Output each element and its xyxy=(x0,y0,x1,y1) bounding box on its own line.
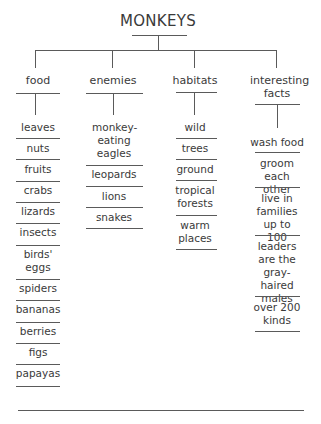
facts-item: live in families up to 100 xyxy=(254,192,300,244)
food-item: papayas xyxy=(12,367,64,380)
habitats-item: tropical forests xyxy=(174,184,216,210)
title-underline xyxy=(132,35,187,36)
facts-item: groom each other xyxy=(250,157,304,196)
category-food-stem xyxy=(35,93,36,115)
category-habitats-underline xyxy=(176,92,217,93)
divider xyxy=(16,159,60,160)
category-enemies-underline xyxy=(86,93,143,94)
divider xyxy=(86,228,143,229)
divider xyxy=(16,364,60,365)
divider xyxy=(255,331,300,332)
divider xyxy=(86,186,143,187)
enemies-item: lions xyxy=(84,190,144,203)
category-food-label: food xyxy=(15,74,61,87)
divider xyxy=(255,152,300,153)
food-item: nuts xyxy=(14,142,62,155)
divider xyxy=(16,386,60,387)
divider xyxy=(16,181,60,182)
branch-bar xyxy=(35,50,277,51)
food-item: figs xyxy=(14,346,62,359)
divider xyxy=(176,138,217,139)
enemies-item: monkey-eating eagles xyxy=(92,121,136,160)
drop-food xyxy=(35,50,36,68)
food-item: birds' eggs xyxy=(18,248,58,274)
divider xyxy=(16,322,60,323)
category-facts-label: interesting facts xyxy=(250,74,304,100)
divider xyxy=(176,180,217,181)
drop-enemies xyxy=(112,50,113,68)
divider xyxy=(176,249,217,250)
food-item: spiders xyxy=(14,282,62,295)
facts-item: over 200 kinds xyxy=(252,301,302,327)
category-food-underline xyxy=(16,93,60,94)
title-stem xyxy=(158,35,159,50)
drop-facts xyxy=(276,50,277,68)
divider xyxy=(16,300,60,301)
divider xyxy=(16,223,60,224)
food-item: insects xyxy=(14,226,62,239)
divider xyxy=(255,187,300,188)
food-item: fruits xyxy=(14,163,62,176)
divider xyxy=(86,165,143,166)
divider xyxy=(16,245,60,246)
divider xyxy=(255,296,300,297)
diagram-title: MONKEYS xyxy=(108,12,208,30)
habitats-item: wild xyxy=(172,121,218,134)
category-facts-stem xyxy=(277,104,278,128)
category-habitats-stem xyxy=(194,92,195,115)
divider xyxy=(16,343,60,344)
enemies-item: leopards xyxy=(84,168,144,181)
habitats-item: trees xyxy=(172,142,218,155)
habitats-item: warm places xyxy=(174,219,216,245)
divider xyxy=(176,215,217,216)
drop-habitats xyxy=(194,50,195,68)
bottom-rule xyxy=(18,410,304,411)
category-enemies-stem xyxy=(113,93,114,115)
divider xyxy=(255,235,300,236)
divider xyxy=(176,159,217,160)
divider xyxy=(16,138,60,139)
enemies-item: snakes xyxy=(84,211,144,224)
facts-item: wash food xyxy=(248,136,306,149)
food-item: leaves xyxy=(14,121,62,134)
food-item: crabs xyxy=(14,184,62,197)
category-habitats-label: habitats xyxy=(172,74,218,87)
food-item: bananas xyxy=(14,303,62,316)
food-item: lizards xyxy=(14,205,62,218)
divider xyxy=(16,279,60,280)
food-item: berries xyxy=(14,325,62,338)
habitats-item: ground xyxy=(172,163,218,176)
divider xyxy=(16,202,60,203)
divider xyxy=(86,207,143,208)
category-enemies-label: enemies xyxy=(82,74,144,87)
